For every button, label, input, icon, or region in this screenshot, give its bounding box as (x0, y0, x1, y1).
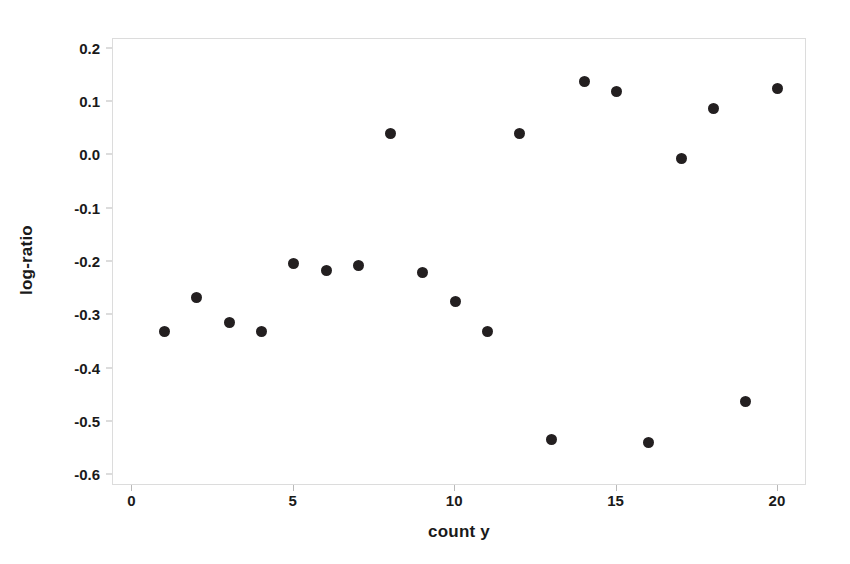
data-point (224, 317, 235, 328)
y-tick-label: -0.5 (38, 412, 100, 429)
data-point (579, 76, 590, 87)
x-tick-label: 0 (111, 492, 151, 509)
x-tick-mark (777, 485, 778, 491)
x-tick-label: 5 (273, 492, 313, 509)
data-point (385, 128, 396, 139)
y-tick-label: 0.1 (38, 92, 100, 109)
data-point (482, 326, 493, 337)
y-tick-label: -0.3 (38, 306, 100, 323)
x-axis-title: count y (112, 522, 806, 542)
data-point (514, 128, 525, 139)
data-point (772, 83, 783, 94)
y-tick-label: -0.1 (38, 199, 100, 216)
x-tick-label: 15 (596, 492, 636, 509)
data-point (191, 292, 202, 303)
plot-area (112, 38, 806, 485)
data-point (256, 326, 267, 337)
x-tick-label: 20 (757, 492, 797, 509)
data-point (288, 258, 299, 269)
y-tick-label: -0.2 (38, 252, 100, 269)
data-point (450, 296, 461, 307)
x-tick-mark (293, 485, 294, 491)
y-tick-label: -0.4 (38, 359, 100, 376)
scatter-chart: log-ratio 0.20.10.0-0.1-0.2-0.3-0.4-0.5-… (0, 0, 850, 564)
data-point (321, 265, 332, 276)
data-point (546, 434, 557, 445)
data-point (159, 326, 170, 337)
data-point (708, 103, 719, 114)
data-point (740, 396, 751, 407)
data-point (417, 267, 428, 278)
data-point (353, 260, 364, 271)
y-tick-label: 0.0 (38, 146, 100, 163)
y-tick-label: -0.6 (38, 466, 100, 483)
x-tick-mark (616, 485, 617, 491)
x-tick-mark (454, 485, 455, 491)
data-point (676, 153, 687, 164)
data-point (643, 437, 654, 448)
y-axis-title-label: log-ratio (17, 225, 37, 295)
data-point (611, 86, 622, 97)
y-tick-label: 0.2 (38, 39, 100, 56)
x-tick-mark (131, 485, 132, 491)
x-tick-label: 10 (434, 492, 474, 509)
